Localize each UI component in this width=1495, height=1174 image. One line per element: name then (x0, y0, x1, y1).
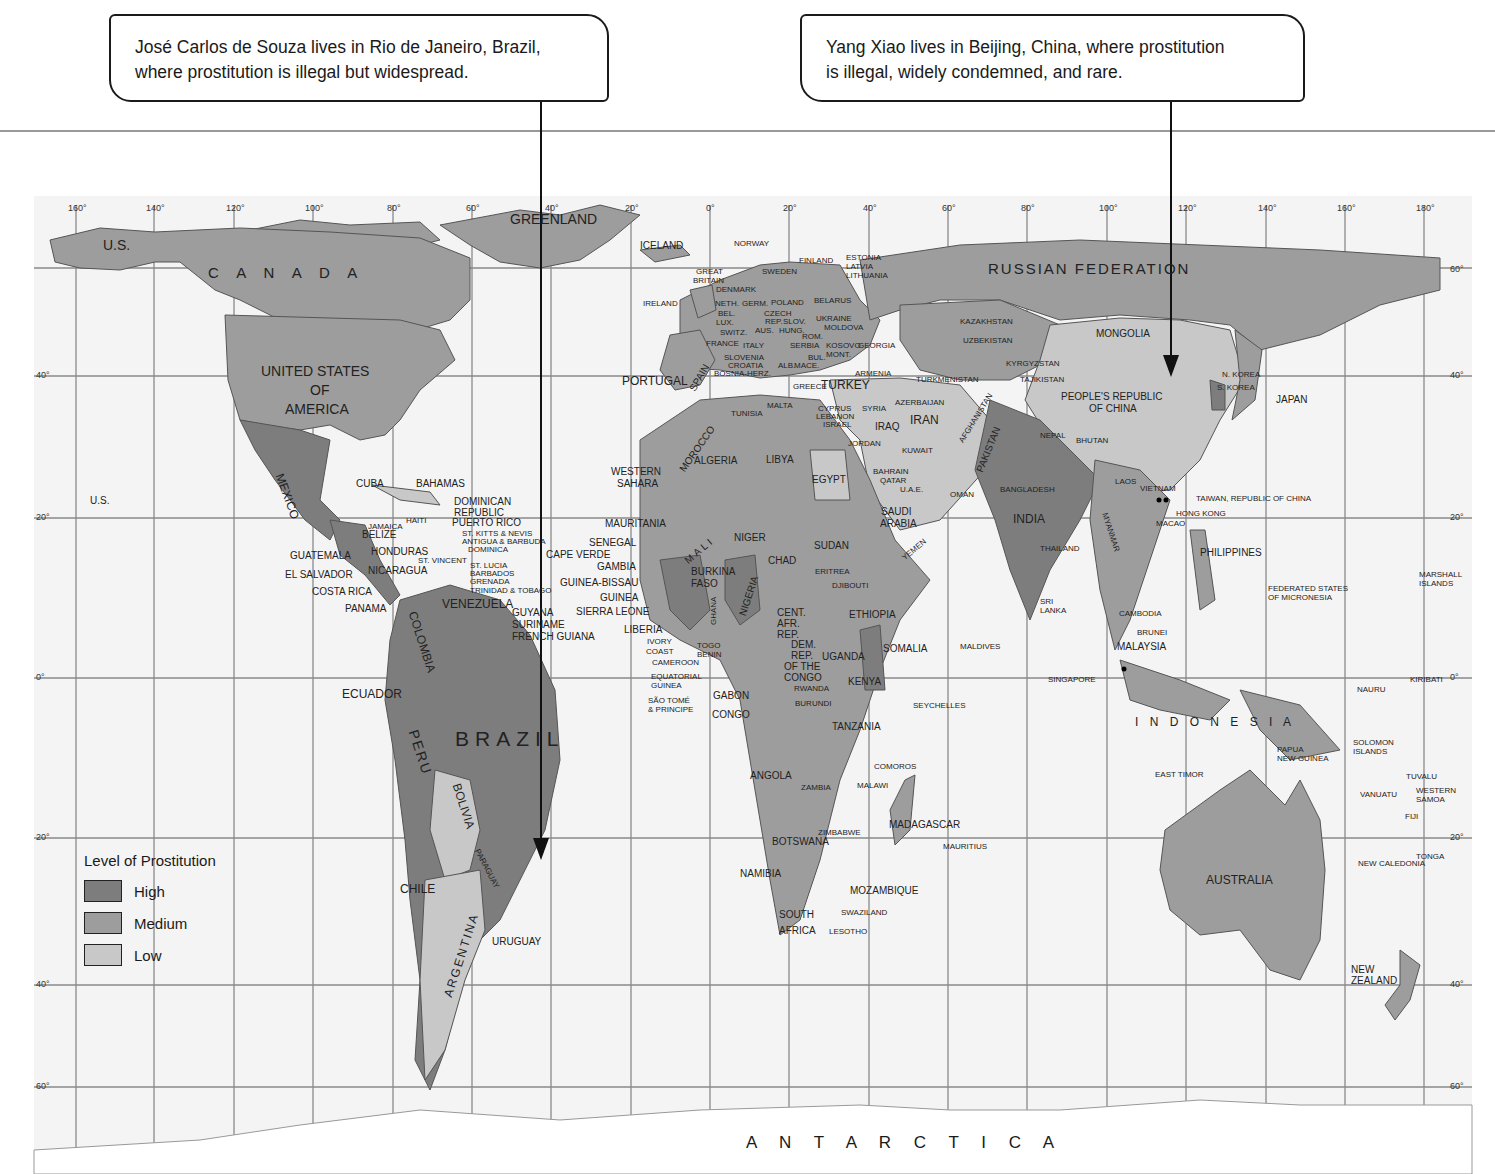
lon-tick: 100° (1099, 203, 1118, 213)
legend-item-low: Low (84, 939, 216, 971)
label-burkina-2: FASO (691, 579, 718, 589)
lon-tick: 60° (466, 203, 480, 213)
label-russia: RUSSIAN FEDERATION (988, 261, 1190, 276)
lon-tick: 80° (387, 203, 401, 213)
legend-swatch-low (84, 944, 122, 966)
label-armenia: ARMENIA (855, 370, 891, 378)
label-mongolia: MONGOLIA (1096, 329, 1150, 339)
label-comoros: COMOROS (874, 763, 916, 771)
label-mauritius: MAURITIUS (943, 843, 987, 851)
label-kiribati: KIRIBATI (1410, 676, 1443, 684)
label-alb: ALB. (778, 362, 795, 370)
lon-tick: 140° (146, 203, 165, 213)
label-georgia: GEORGIA (858, 342, 895, 350)
label-micronesia-2: OF MICRONESIA (1268, 594, 1332, 602)
label-usa-1: UNITED STATES (261, 364, 369, 378)
label-madagascar: MADAGASCAR (889, 820, 960, 830)
label-poland: POLAND (771, 299, 804, 307)
label-vietnam: VIETNAM (1140, 485, 1176, 493)
label-china-2: OF CHINA (1089, 404, 1137, 414)
legend-label-medium: Medium (134, 915, 187, 932)
label-cambodia: CAMBODIA (1119, 610, 1162, 618)
label-malaysia: MALAYSIA (1117, 642, 1166, 652)
label-s-korea: S. KOREA (1217, 384, 1255, 392)
label-bhutan: BHUTAN (1076, 437, 1108, 445)
label-tanzania: TANZANIA (832, 722, 881, 732)
label-chile: CHILE (400, 883, 435, 895)
lat-tick: 20° (36, 512, 50, 522)
label-marshall-2: ISLANDS (1419, 580, 1453, 588)
lat-tick: 40° (1450, 979, 1464, 989)
lat-tick: 20° (1450, 832, 1464, 842)
label-south-africa-1: SOUTH (779, 910, 814, 920)
lat-tick: 40° (36, 370, 50, 380)
label-kosovo: KOSOVO (826, 342, 861, 350)
label-jordan: JORDAN (848, 440, 881, 448)
label-aus: AUS. (755, 327, 774, 335)
label-lesotho: LESOTHO (829, 928, 867, 936)
label-norway: NORWAY (734, 240, 769, 248)
lon-tick: 140° (1258, 203, 1277, 213)
label-tunisia: TUNISIA (731, 410, 763, 418)
label-france: FRANCE (706, 340, 739, 348)
label-burkina-1: BURKINA (691, 567, 735, 577)
label-brunei: BRUNEI (1137, 629, 1167, 637)
legend-title: Level of Prostitution (84, 852, 216, 869)
label-canada: C A N A D A (208, 265, 364, 280)
label-car-2: AFR. (777, 619, 800, 629)
label-st-vincent: ST. VINCENT (418, 557, 467, 565)
label-estonia: ESTONIA (846, 254, 881, 262)
label-rom: ROM. (802, 333, 823, 341)
label-uganda: UGANDA (822, 652, 865, 662)
label-micronesia-1: FEDERATED STATES (1268, 585, 1348, 593)
label-benin: BENIN (697, 651, 721, 659)
label-car-1: CENT. (777, 608, 806, 618)
label-saudi-2: ARABIA (880, 519, 917, 529)
label-western-sahara-1: WESTERN (611, 467, 661, 477)
label-mozambique: MOZAMBIQUE (850, 886, 918, 896)
label-turkmenistan: TURKMENISTAN (916, 376, 979, 384)
label-zambia: ZAMBIA (801, 784, 831, 792)
label-somalia: SOMALIA (883, 644, 927, 654)
label-drc-4: CONGO (784, 673, 822, 683)
label-sao-tome-2: & PRINCIPE (648, 706, 693, 714)
label-sierra-leone: SIERRA LEONE (576, 607, 649, 617)
lon-tick: 160° (1337, 203, 1356, 213)
label-denmark: DENMARK (716, 286, 756, 294)
label-east-timor: EAST TIMOR (1155, 771, 1204, 779)
label-ukraine: UKRAINE (816, 315, 852, 323)
label-sri-lanka-2: LANKA (1040, 607, 1066, 615)
label-bel: BEL. (718, 310, 735, 318)
label-trinidad: TRINIDAD & TOBAGO (470, 587, 552, 595)
lon-tick: 40° (863, 203, 877, 213)
legend-item-medium: Medium (84, 907, 216, 939)
label-cape-verde: CAPE VERDE (546, 550, 610, 560)
label-drc-2: REP. (791, 651, 813, 661)
label-djibouti: DJIBOUTI (832, 582, 868, 590)
label-egypt: EGYPT (812, 475, 846, 485)
lon-tick: 20° (625, 203, 639, 213)
label-greenland: GREENLAND (510, 212, 597, 226)
lon-tick: 180° (1416, 203, 1435, 213)
label-south-africa-2: AFRICA (779, 926, 816, 936)
label-ivory-coast-2: COAST (646, 648, 674, 656)
label-ivory-coast-1: IVORY (647, 638, 672, 646)
label-hong-kong: HONG KONG (1176, 510, 1226, 518)
label-india: INDIA (1013, 513, 1045, 525)
label-singapore: SINGAPORE (1048, 676, 1096, 684)
label-venezuela: VENEZUELA (442, 598, 513, 610)
label-kenya: KENYA (848, 677, 881, 687)
label-guatemala: GUATEMALA (290, 551, 351, 561)
legend-swatch-medium (84, 912, 122, 934)
lat-tick: 60° (1450, 264, 1464, 274)
label-senegal: SENEGAL (589, 538, 636, 548)
label-laos: LAOS (1115, 478, 1136, 486)
label-neth: NETH. (715, 300, 739, 308)
lat-tick: 20° (36, 832, 50, 842)
label-lux: LUX. (716, 319, 734, 327)
label-saudi-1: SAUDI (881, 507, 912, 517)
label-panama: PANAMA (345, 604, 387, 614)
label-turkey: TURKEY (821, 379, 870, 391)
label-nauru: NAURU (1357, 686, 1385, 694)
brazil-pointer-arrowhead (533, 838, 549, 860)
